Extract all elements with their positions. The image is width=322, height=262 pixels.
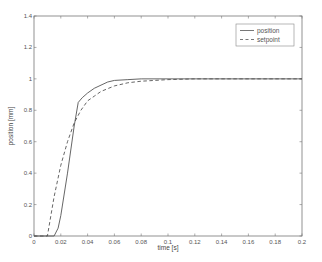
y-tick-label: 1.4 — [24, 13, 33, 19]
y-tick-label: 0.8 — [24, 107, 33, 113]
x-tick-label: 0.12 — [189, 239, 201, 245]
x-axis-label: time [s] — [158, 244, 179, 252]
y-tick-label: 1.2 — [24, 44, 33, 50]
x-tick-label: 0.18 — [269, 239, 281, 245]
y-tick-label: 0.4 — [24, 170, 33, 176]
x-tick-label: 0 — [32, 239, 36, 245]
y-tick-label: 0.6 — [24, 139, 33, 145]
y-tick-label: 1 — [29, 76, 33, 82]
legend-label-position: position — [257, 27, 280, 35]
chart: 00.020.040.060.080.10.120.140.160.180.2 … — [0, 0, 322, 262]
legend: position setpoint — [236, 24, 294, 46]
y-axis-label: position [mm] — [7, 106, 15, 145]
legend-label-setpoint: setpoint — [257, 36, 280, 44]
x-tick-label: 0.16 — [243, 239, 255, 245]
x-tick-label: 0.02 — [55, 239, 67, 245]
y-tick-label: 0.2 — [24, 202, 33, 208]
x-tick-label: 0.04 — [82, 239, 94, 245]
x-tick-label: 0.08 — [135, 239, 147, 245]
x-tick-label: 0.2 — [298, 239, 307, 245]
x-tick-label: 0.14 — [216, 239, 228, 245]
x-tick-label: 0.06 — [109, 239, 121, 245]
